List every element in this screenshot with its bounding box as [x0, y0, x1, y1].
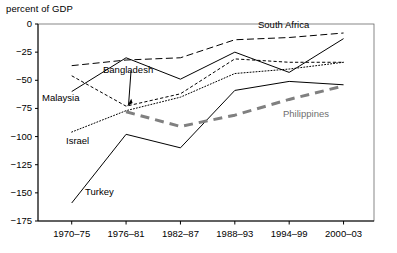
series-line-south-africa	[72, 33, 344, 66]
x-tick-label: 1994–99	[259, 228, 319, 239]
y-tick-label: −50	[0, 74, 32, 85]
series-label-south-africa: South Africa	[258, 19, 309, 30]
bangladesh-callout-arrow	[127, 71, 133, 106]
y-tick-label: −75	[0, 102, 32, 113]
x-tick-label: 1982–87	[150, 228, 210, 239]
x-tick-label: 1988–93	[205, 228, 265, 239]
series-label-israel: Israel	[66, 135, 89, 146]
series-label-malaysia: Malaysia	[42, 92, 80, 103]
x-tick-label: 1976–81	[96, 228, 156, 239]
y-tick-label: 0	[0, 18, 32, 29]
series-label-bangladesh: Bangladesh	[103, 64, 153, 75]
y-tick-label: −25	[0, 46, 32, 57]
chart-container: percent of GDP 0−25−50−75−100−125−150−17…	[0, 0, 397, 253]
x-tick-label: 1970–75	[42, 228, 102, 239]
series-line-philippines	[126, 86, 343, 127]
y-tick-label: −150	[0, 187, 32, 198]
y-tick-label: −100	[0, 131, 32, 142]
x-tick-label: 2000–03	[314, 228, 374, 239]
series-label-turkey: Turkey	[85, 186, 114, 197]
y-tick-label: −125	[0, 159, 32, 170]
series-line-turkey	[72, 81, 344, 203]
y-tick-label: −175	[0, 215, 32, 226]
chart-canvas	[0, 0, 397, 253]
series-label-philippines: Philippines	[283, 108, 329, 119]
